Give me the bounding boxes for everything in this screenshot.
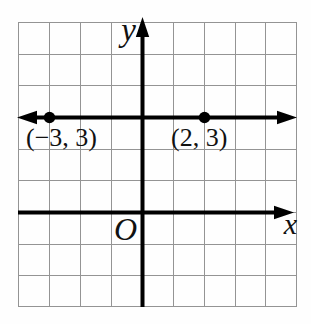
point-neg3-3 [44,112,55,123]
coordinate-plane-figure: y x O (−3, 3) (2, 3) [0,0,311,324]
point-neg3-3-label: (−3, 3) [26,123,97,152]
figure-svg: y x O (−3, 3) (2, 3) [0,0,311,324]
x-axis-label: x [283,207,298,240]
y-axis-label: y [118,12,136,48]
point-2-3 [199,112,210,123]
origin-label: O [114,211,137,247]
point-2-3-label: (2, 3) [171,123,227,152]
